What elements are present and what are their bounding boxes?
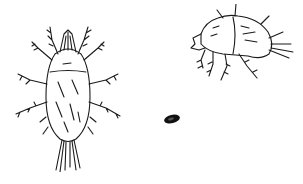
- mite-side-view-figure: [183, 4, 298, 82]
- mite-dorsal-icon: [8, 22, 128, 172]
- illustration-canvas: [0, 0, 303, 184]
- mite-dorsal-view-figure: [8, 22, 128, 172]
- actual-size-dot-figure: [163, 113, 183, 125]
- mite-actual-size-icon: [163, 113, 183, 125]
- mite-lateral-icon: [183, 4, 298, 82]
